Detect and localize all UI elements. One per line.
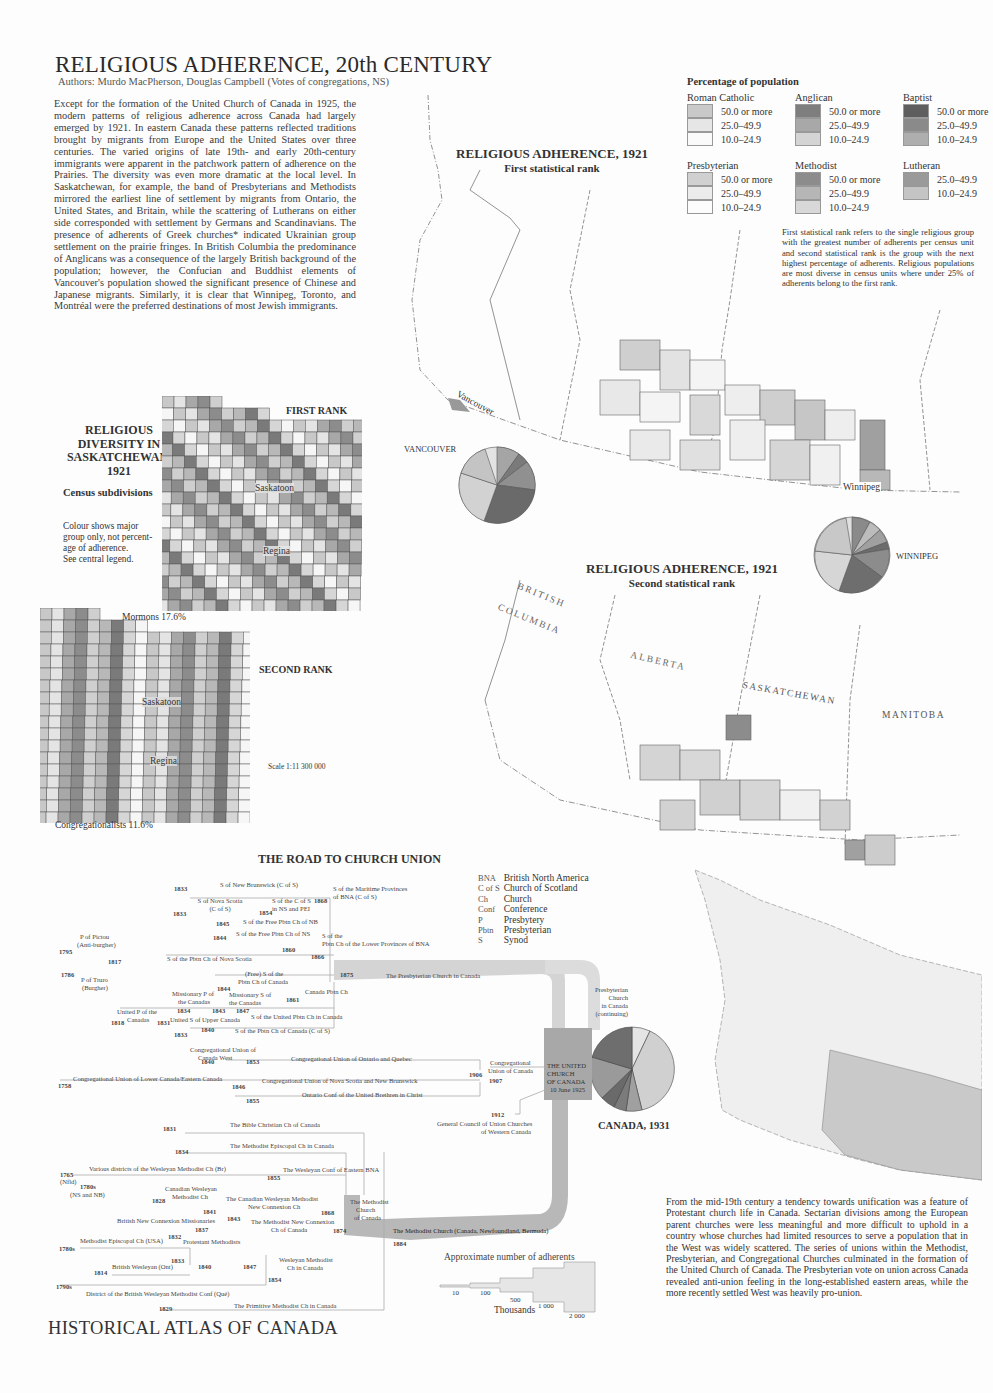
node-label: Ch of Canada: [271, 1226, 307, 1234]
regina-label-first: Regina: [263, 546, 290, 556]
node-label: (NS and NB): [70, 1191, 105, 1199]
scale-tick: 500: [510, 1296, 521, 1304]
node-label: Presbyterian: [592, 986, 628, 994]
node-label: Canada Pbtn Ch: [305, 988, 348, 996]
sk-note-line: See central legend.: [63, 554, 152, 565]
year-label: 1868: [321, 1209, 334, 1216]
scale-label: Scale 1:11 300 000: [268, 762, 325, 771]
node-label: S of the United Pbtn Ch in Canada: [251, 1013, 342, 1021]
year-label: 1844: [213, 934, 226, 941]
united-church-label: OF CANADA: [547, 1078, 585, 1086]
abbreviation: Ch: [478, 894, 504, 904]
node-label: S of the Free Pbtn Ch of NS: [236, 930, 310, 938]
abbreviation-row: PbtnPresbyterian: [478, 925, 593, 935]
atlas-footer: HISTORICAL ATLAS OF CANADA: [48, 1318, 338, 1339]
united-church-label: THE UNITED: [547, 1062, 586, 1070]
year-label: 1834: [177, 1007, 190, 1014]
pie-label-vancouver: VANCOUVER: [404, 444, 456, 454]
node-label: British Wesleyan (Ont): [112, 1263, 173, 1271]
second-rank-census-units: [640, 715, 895, 865]
year-label: 1847: [243, 1263, 256, 1270]
node-label: S of New Brunswick (C of S): [220, 881, 298, 889]
year-label: 1840: [201, 1026, 214, 1033]
node-label: Canadian Wesleyan: [165, 1185, 217, 1193]
node-label: Missionary S of: [229, 991, 271, 999]
node-label: Union of Canada: [488, 1067, 533, 1075]
abbreviation-row: PPresbytery: [478, 915, 593, 925]
year-label: 1868: [314, 897, 327, 904]
node-label: Congregational Union of: [190, 1046, 256, 1054]
saskatchewan-second-rank-grid: [40, 608, 250, 823]
year-label: 1875: [340, 971, 353, 978]
node-label: S of the Pbtn Ch of Canada (C of S): [235, 1027, 330, 1035]
third-map-shapes: [695, 870, 982, 1180]
node-label: United P of the: [117, 1008, 157, 1016]
year-label: 1814: [94, 1269, 107, 1276]
node-label: Congregational: [490, 1059, 531, 1067]
node-label: British New Connexion Missionaries: [117, 1217, 215, 1225]
abbreviation-meaning: Conference: [504, 904, 593, 914]
node-label: District of the British Wesleyan Methodi…: [86, 1290, 229, 1298]
node-label: (Burgher): [82, 984, 108, 992]
year-label: 1829: [159, 1305, 172, 1312]
node-label: (Anti-burgher): [77, 941, 116, 949]
first-rank-label: FIRST RANK: [286, 405, 347, 416]
sk-note-line: Colour shows major: [63, 521, 152, 532]
second-rank-map-title: RELIGIOUS ADHERENCE, 1921: [572, 561, 792, 577]
congregationalists-note: Congregationalists 11.6%: [55, 820, 153, 830]
abbreviation: BNA: [478, 873, 504, 883]
year-label: 1840: [201, 1058, 214, 1065]
year-label: 1854: [268, 1276, 281, 1283]
saskatchewan-note: Colour shows major group only, not perce…: [63, 521, 152, 565]
node-label: of Western Canada: [481, 1128, 531, 1136]
second-rank-map-heading: RELIGIOUS ADHERENCE, 1921 Second statist…: [572, 561, 792, 589]
year-label: 1845: [216, 920, 229, 927]
year-label: 1853: [246, 1058, 259, 1065]
year-label: 1841: [203, 1208, 216, 1215]
second-rank-label: SECOND RANK: [259, 664, 333, 675]
node-label: S of the: [322, 932, 343, 940]
first-rank-map-title: RELIGIOUS ADHERENCE, 1921: [452, 146, 652, 162]
city-label-winnipeg: Winnipeg: [842, 482, 881, 492]
node-label: in Canada: [592, 1002, 628, 1010]
node-label: S of the Maritime Provinces of BNA (C of…: [333, 885, 413, 900]
year-label: 1847: [236, 1007, 249, 1014]
node-label: Methodist Episcopal Ch (USA): [80, 1237, 163, 1245]
abbreviation-row: SSynod: [478, 935, 593, 945]
year-label: 1831: [157, 1019, 170, 1026]
node-label: The Methodist Episcopal Ch in Canada: [230, 1142, 334, 1150]
node-label: (continuing): [585, 1010, 628, 1018]
year-label: 1846: [232, 1083, 245, 1090]
node-label: United S of Upper Canada: [170, 1016, 240, 1024]
node-label: Protestant Methodists: [183, 1238, 240, 1246]
year-label: 1758: [58, 1082, 71, 1089]
node-label: Ch in Canada: [287, 1264, 323, 1272]
abbreviation-meaning: Church: [504, 894, 593, 904]
node-label: Canadas: [127, 1016, 149, 1024]
abbreviation-row: BNABritish North America: [478, 873, 593, 883]
scale-tick: 100: [480, 1289, 491, 1297]
year-label: 1906: [469, 1071, 482, 1078]
node-label: S of the C of S in NS and PEI: [272, 897, 312, 912]
abbreviation-row: ChChurch: [478, 894, 593, 904]
year-label: 1860: [282, 946, 295, 953]
abbreviation-row: ConfConference: [478, 904, 593, 914]
node-label: General Council of Union Churches: [437, 1120, 532, 1128]
node-label: The Methodist: [350, 1198, 389, 1206]
node-label: Pbtn Ch of the Lower Provinces of BNA: [322, 940, 430, 948]
abbreviation-key: BNABritish North AmericaC of SChurch of …: [478, 873, 593, 946]
node-label: the Canadas: [178, 998, 210, 1006]
saskatoon-label-second: Saskatoon: [142, 697, 181, 707]
node-label: (Free) S of the: [245, 970, 283, 978]
year-label: 1843: [227, 1215, 240, 1222]
node-label: The Wesleyan Conf of Eastern BNA: [283, 1166, 379, 1174]
bottom-text: From the mid-19th century a tendency tow…: [666, 1196, 968, 1299]
first-rank-map-subtitle: First statistical rank: [452, 162, 652, 174]
node-label: P of Pictou: [80, 933, 109, 941]
year-label: 1790s: [56, 1283, 72, 1290]
year-label: 1833: [174, 885, 187, 892]
node-label: Wesleyan Methodist: [279, 1256, 333, 1264]
year-label: 1795: [59, 948, 72, 955]
node-label: (Nfld): [60, 1178, 76, 1186]
year-label: 1855: [267, 1174, 280, 1181]
